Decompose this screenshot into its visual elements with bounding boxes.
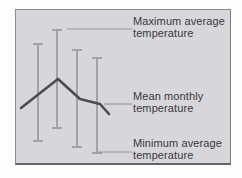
maximum-average-temperature-label: Maximum average temperature — [133, 16, 239, 39]
figure-canvas: Maximum average temperature Mean monthly… — [0, 0, 242, 178]
label-line: temperature — [133, 28, 239, 40]
label-line: Minimum average — [133, 138, 239, 150]
label-line: Maximum average — [133, 16, 239, 28]
label-line: Mean monthly — [133, 91, 239, 103]
mean-temperature-line — [21, 79, 109, 114]
label-line: temperature — [133, 150, 239, 162]
label-line: temperature — [133, 103, 239, 115]
mean-monthly-temperature-label: Mean monthly temperature — [133, 91, 239, 114]
minimum-average-temperature-label: Minimum average temperature — [133, 138, 239, 161]
